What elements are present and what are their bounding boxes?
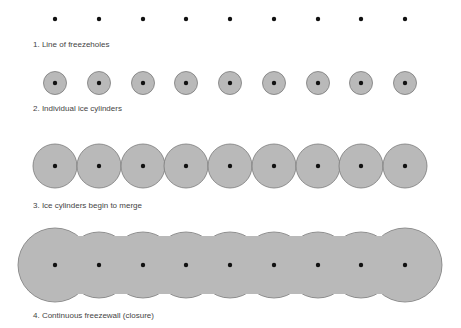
freezehole-dot: [316, 263, 320, 267]
freezehole-dot: [272, 17, 276, 21]
freezehole-dot: [184, 17, 188, 21]
stage-4-continuous-freezewall: [18, 228, 442, 302]
freezehole-dot: [359, 81, 363, 85]
freezehole-dot: [184, 81, 188, 85]
stage-1-label: 1. Line of freezeholes: [33, 40, 110, 49]
stage-1-freezeholes: [53, 17, 407, 21]
freezehole-dot: [97, 17, 101, 21]
freezehole-dot: [403, 17, 407, 21]
freezehole-dot: [403, 263, 407, 267]
stage-3-merging-cylinders: [33, 144, 427, 188]
freezehole-dot: [53, 263, 57, 267]
freezehole-dot: [97, 81, 101, 85]
freezehole-dot: [97, 164, 101, 168]
freezehole-dot: [184, 164, 188, 168]
freezehole-dot: [403, 81, 407, 85]
stage-2-label: 2. Individual ice cylinders: [33, 104, 122, 113]
freezehole-dot: [228, 81, 232, 85]
freezehole-dot: [359, 17, 363, 21]
freezewall-diagram: [0, 0, 461, 328]
freezehole-dot: [141, 164, 145, 168]
freezehole-dot: [316, 164, 320, 168]
freezehole-dot: [184, 263, 188, 267]
stage-3-label: 3. Ice cylinders begin to merge: [33, 201, 142, 210]
freezehole-dot: [272, 263, 276, 267]
freezehole-dot: [141, 81, 145, 85]
freezehole-dot: [316, 81, 320, 85]
freezehole-dot: [97, 263, 101, 267]
freezehole-dot: [316, 17, 320, 21]
freezehole-dot: [228, 263, 232, 267]
freezehole-dot: [53, 81, 57, 85]
stage-4-label: 4. Continuous freezewall (closure): [33, 311, 154, 320]
freezehole-dot: [141, 263, 145, 267]
stage-2-ice-cylinders: [44, 72, 417, 95]
freezehole-dot: [228, 164, 232, 168]
freezehole-dot: [359, 263, 363, 267]
freezehole-dot: [228, 17, 232, 21]
freezehole-dot: [272, 81, 276, 85]
freezehole-dot: [53, 17, 57, 21]
freezehole-dot: [403, 164, 407, 168]
freezehole-dot: [272, 164, 276, 168]
freezehole-dot: [53, 164, 57, 168]
freezehole-dot: [359, 164, 363, 168]
freezehole-dot: [141, 17, 145, 21]
